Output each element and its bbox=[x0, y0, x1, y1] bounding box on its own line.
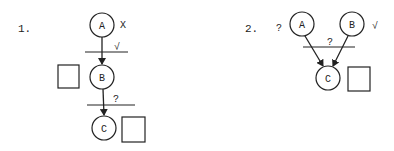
bar-1-mark: √ bbox=[114, 41, 120, 53]
node-b-label: B bbox=[99, 73, 105, 84]
edge-a-c bbox=[305, 36, 323, 66]
box-c bbox=[348, 67, 370, 91]
box-b bbox=[58, 65, 79, 88]
diagram-2-label: 2. bbox=[245, 23, 258, 35]
bar-2-mark: ? bbox=[113, 94, 119, 105]
diagram-canvas: 1. A X √ B ? C 2. ? A B √ ? C bbox=[0, 0, 394, 151]
node-c-label: C bbox=[101, 124, 107, 135]
box-c bbox=[122, 117, 145, 142]
node-a-mark: ? bbox=[276, 23, 282, 34]
diagram-1: 1. A X √ B ? C bbox=[18, 13, 145, 142]
node-c-label: C bbox=[325, 74, 331, 85]
node-b-label: B bbox=[349, 20, 355, 31]
node-a-mark: X bbox=[120, 20, 126, 31]
edge-b-c bbox=[103, 89, 104, 115]
node-a-label: A bbox=[299, 20, 305, 31]
node-a-label: A bbox=[99, 21, 105, 32]
bar-mark: ? bbox=[327, 37, 333, 48]
node-b-mark: √ bbox=[372, 20, 378, 32]
edge-b-c bbox=[333, 36, 348, 66]
diagram-2: 2. ? A B √ ? C bbox=[245, 12, 378, 91]
diagram-1-label: 1. bbox=[18, 23, 31, 35]
